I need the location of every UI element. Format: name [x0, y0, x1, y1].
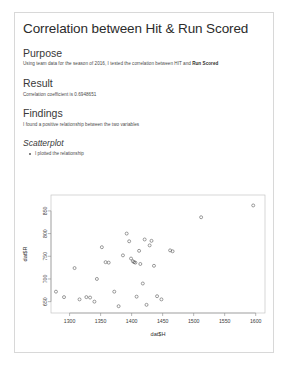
data-point — [160, 298, 163, 301]
data-point — [138, 249, 141, 252]
data-point — [141, 282, 144, 285]
scatterplot-svg: 650700750800850 130013501400145015001550… — [15, 181, 273, 353]
y-tick-label: 750 — [42, 252, 48, 261]
screenshot-root: Correlation between Hit & Run Scored Pur… — [0, 0, 288, 368]
data-point — [128, 240, 131, 243]
purpose-text-prefix: Using team data for the season of 2016, … — [23, 61, 192, 66]
scatterplot-bullet-list: I plotted the relationship — [23, 151, 265, 158]
document-content: Correlation between Hit & Run Scored Pur… — [15, 13, 273, 157]
section-body-findings: I found a positive relationship between … — [23, 122, 265, 129]
data-point — [135, 295, 138, 298]
data-point — [85, 296, 88, 299]
x-tick-label: 1400 — [126, 318, 138, 324]
data-point — [89, 296, 92, 299]
data-point — [107, 261, 110, 264]
data-point — [100, 246, 103, 249]
y-axis: 650700750800850 — [42, 206, 51, 306]
section-body-result: Correlation coefficient is 0.6948651 — [23, 92, 265, 99]
purpose-text-strong: Run Scored — [192, 61, 218, 66]
data-point — [130, 257, 133, 260]
section-heading-purpose: Purpose — [23, 47, 265, 60]
section-body-purpose: Using team data for the season of 2016, … — [23, 61, 265, 68]
data-point — [252, 204, 255, 207]
x-tick-label: 1350 — [95, 318, 107, 324]
x-tick-label: 1300 — [64, 318, 76, 324]
x-axis: 1300135014001450150015501600 — [64, 313, 262, 324]
data-point — [95, 277, 98, 280]
section-heading-result: Result — [23, 77, 265, 90]
y-tick-label: 700 — [42, 275, 48, 284]
data-point — [117, 305, 120, 308]
y-tick-label: 650 — [42, 297, 48, 306]
data-point — [148, 244, 151, 247]
section-heading-findings: Findings — [23, 107, 265, 120]
y-tick-label: 850 — [42, 206, 48, 215]
x-tick-label: 1500 — [188, 318, 200, 324]
data-point — [152, 264, 155, 267]
scatterplot-figure: 650700750800850 130013501400145015001550… — [15, 181, 273, 353]
data-point — [54, 290, 57, 293]
data-point — [143, 238, 146, 241]
data-point — [150, 239, 153, 242]
data-points-layer — [54, 204, 254, 308]
data-point — [113, 290, 116, 293]
data-point — [156, 295, 159, 298]
y-axis-label: dat$R — [22, 247, 28, 262]
page-title: Correlation between Hit & Run Scored — [23, 21, 265, 38]
data-point — [104, 261, 107, 264]
data-point — [200, 216, 203, 219]
data-point — [63, 296, 66, 299]
data-point — [125, 232, 128, 235]
data-point — [73, 267, 76, 270]
data-point — [93, 300, 96, 303]
rmarkdown-document-card: Correlation between Hit & Run Scored Pur… — [14, 12, 274, 353]
data-point — [121, 254, 124, 257]
x-tick-label: 1600 — [250, 318, 262, 324]
x-tick-label: 1550 — [219, 318, 231, 324]
data-point — [139, 262, 142, 265]
list-item: I plotted the relationship — [35, 151, 265, 158]
data-point — [145, 303, 148, 306]
section-heading-scatterplot: Scatterplot — [23, 138, 265, 148]
x-tick-label: 1450 — [157, 318, 169, 324]
data-point — [78, 298, 81, 301]
x-axis-label: dat$H — [151, 331, 166, 337]
y-tick-label: 800 — [42, 229, 48, 238]
